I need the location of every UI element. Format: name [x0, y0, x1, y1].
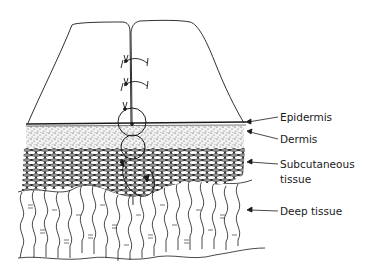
subcutaneous-layer — [22, 148, 245, 196]
skin-layers-diagram: Epidermis Dermis Subcutaneous tissue Dee… — [0, 0, 375, 273]
label-epidermis: Epidermis — [280, 111, 332, 123]
label-dermis: Dermis — [280, 133, 317, 145]
label-subcutaneous: Subcutaneous — [280, 158, 355, 170]
diagram-drawing — [0, 0, 375, 273]
label-leader-arrows — [246, 117, 278, 212]
label-deep-tissue: Deep tissue — [280, 205, 342, 217]
epidermis-layer — [26, 122, 246, 126]
suture-stitches — [121, 55, 148, 110]
label-subcutaneous-tissue: tissue — [280, 173, 311, 185]
dermis-layer — [26, 126, 244, 148]
